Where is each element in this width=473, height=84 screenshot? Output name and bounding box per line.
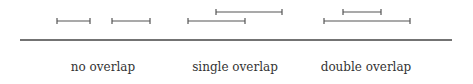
label-no-overlap: no overlap [71,60,135,74]
label-single-overlap: single overlap [192,60,278,74]
label-double-overlap: double overlap [321,60,412,74]
